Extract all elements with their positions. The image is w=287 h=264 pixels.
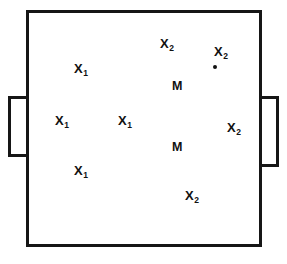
point-label-x2-mid-right: X2 <box>227 121 240 134</box>
point-label-base: X <box>55 113 64 128</box>
point-label-subscript: 2 <box>236 127 241 137</box>
point-label-base: X <box>185 188 194 203</box>
point-label-base: M <box>172 79 182 93</box>
point-label-x1-mid-center: X1 <box>118 114 131 127</box>
point-label-base: X <box>74 163 83 178</box>
point-label-base: X <box>118 113 127 128</box>
point-label-x2-top-left: X2 <box>160 37 173 50</box>
point-label-x1-lower-left: X1 <box>74 164 87 177</box>
diagram-canvas: X2X2X1MX1X1X2MX1X2 <box>0 0 287 264</box>
point-label-m-lower: M <box>172 141 182 154</box>
point-label-x1-upper-left: X1 <box>74 62 87 75</box>
point-label-subscript: 2 <box>223 51 228 61</box>
point-label-m-upper: M <box>172 80 182 93</box>
point-label-subscript: 2 <box>169 43 174 53</box>
point-label-x2-bottom: X2 <box>185 189 198 202</box>
left-side-flap-outline <box>8 96 29 157</box>
point-label-base: M <box>172 140 182 154</box>
point-label-base: X <box>160 36 169 51</box>
data-point-dot-top-right <box>213 65 217 69</box>
point-label-subscript: 1 <box>83 68 88 78</box>
point-label-subscript: 1 <box>64 120 69 130</box>
point-label-subscript: 1 <box>127 120 132 130</box>
right-side-flap-outline <box>259 96 279 167</box>
point-label-base: X <box>227 120 236 135</box>
point-label-base: X <box>214 44 223 59</box>
point-label-x2-top-right: X2 <box>214 45 227 58</box>
point-label-subscript: 1 <box>83 170 88 180</box>
point-label-base: X <box>74 61 83 76</box>
point-label-subscript: 2 <box>194 195 199 205</box>
point-label-x1-mid-left: X1 <box>55 114 68 127</box>
